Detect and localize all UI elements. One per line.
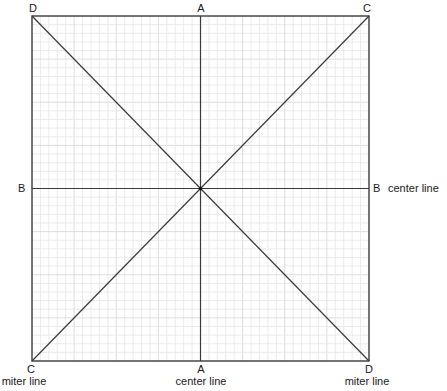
midpoint-label-left: B [18, 182, 25, 194]
caption-center-line-right: center line [388, 182, 439, 194]
caption-center-line-bottom: center line [176, 375, 227, 387]
caption-miter-line-left: miter line [2, 375, 47, 387]
caption-miter-line-right: miter line [345, 375, 390, 387]
corner-label-bottom-right: D [365, 363, 373, 375]
corner-label-top-right: C [363, 2, 371, 14]
midpoint-label-top: A [197, 2, 204, 14]
miter-center-line-diagram [0, 0, 447, 391]
corner-label-bottom-left: C [27, 363, 35, 375]
midpoint-label-bottom: A [197, 363, 204, 375]
center-point [199, 187, 203, 191]
midpoint-label-right: B [373, 182, 380, 194]
corner-label-top-left: D [29, 2, 37, 14]
